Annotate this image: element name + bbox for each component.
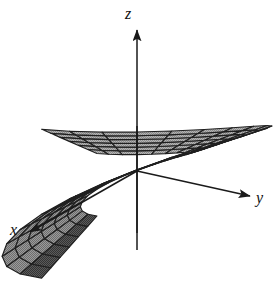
surface-facet xyxy=(102,132,137,136)
axis-label-y: y xyxy=(256,190,263,206)
axis-label-x: x xyxy=(10,222,17,238)
surface-plot-canvas xyxy=(0,0,276,305)
axis-label-z: z xyxy=(125,6,131,22)
surface-facet xyxy=(137,131,172,136)
surface-plot-figure: z y x xyxy=(0,0,276,305)
